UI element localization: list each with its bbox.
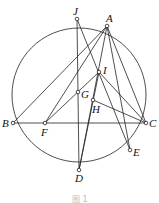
segment-IC xyxy=(99,72,146,123)
geometry-figure: J A I G H B F C E D 图 1 xyxy=(0,0,159,203)
segment-JE xyxy=(77,19,130,150)
point-markers xyxy=(11,17,148,172)
label-E: E xyxy=(132,146,140,158)
point-E xyxy=(128,148,132,152)
point-I xyxy=(97,70,101,74)
point-C xyxy=(144,121,148,125)
segment-JD xyxy=(77,19,79,170)
segments xyxy=(13,19,146,170)
figure-caption: 图 1 xyxy=(72,195,88,203)
point-F xyxy=(43,121,47,125)
label-A: A xyxy=(105,12,113,24)
label-B: B xyxy=(2,117,9,129)
label-H: H xyxy=(91,103,101,115)
point-B xyxy=(11,121,15,125)
label-J: J xyxy=(73,5,79,17)
label-G: G xyxy=(81,88,89,100)
point-H xyxy=(91,98,95,102)
segment-AE xyxy=(107,26,130,150)
label-F: F xyxy=(40,126,48,138)
segment-FI xyxy=(45,72,99,123)
point-J xyxy=(75,17,79,21)
point-A xyxy=(105,24,109,28)
label-C: C xyxy=(149,117,157,129)
point-G xyxy=(76,90,80,94)
label-D: D xyxy=(74,172,83,184)
segment-ID xyxy=(79,72,99,170)
label-I: I xyxy=(102,64,108,76)
